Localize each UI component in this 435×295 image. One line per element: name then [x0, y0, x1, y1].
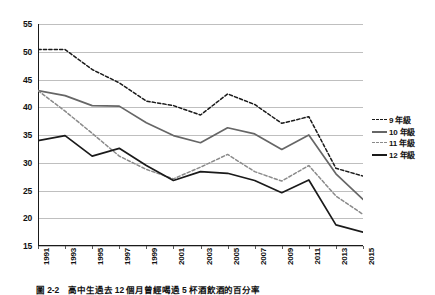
plot-area — [38, 24, 363, 246]
x-tick-label: 2013 — [340, 248, 349, 265]
x-tick-mark — [363, 246, 364, 249]
legend-item: 9 年級 — [372, 114, 434, 126]
y-tick-label: 30 — [23, 158, 32, 168]
y-tick-label: 45 — [23, 75, 32, 85]
x-tick-label: 1997 — [123, 248, 132, 265]
x-tick-label: 2003 — [205, 248, 214, 265]
legend-swatch-10-icon — [372, 127, 387, 135]
series-line-10 — [38, 91, 363, 200]
legend-swatch-9-icon — [372, 116, 387, 124]
legend-label: 11 年級 — [389, 137, 415, 148]
y-tick-label: 25 — [23, 186, 32, 196]
y-tick-label: 35 — [23, 130, 32, 140]
legend-swatch-12-icon — [372, 150, 387, 158]
y-tick-label: 50 — [23, 47, 32, 57]
series-line-9 — [38, 50, 363, 177]
x-tick-label: 1991 — [42, 248, 51, 265]
y-tick-label: 55 — [23, 19, 32, 29]
x-tick-label: 2015 — [367, 248, 376, 265]
x-tick-label: 1999 — [150, 248, 159, 265]
legend-label: 9 年級 — [389, 114, 411, 125]
legend-item: 11 年級 — [372, 137, 434, 149]
x-tick-label: 2011 — [313, 248, 322, 265]
y-tick-label: 20 — [23, 213, 32, 223]
y-tick-label: 15 — [23, 241, 32, 251]
x-tick-label: 2005 — [232, 248, 241, 265]
series-lines — [38, 24, 363, 246]
series-line-12 — [38, 136, 363, 233]
legend-item: 12 年級 — [372, 149, 434, 161]
x-tick-label: 1993 — [69, 248, 78, 265]
y-axis-labels: 555045403530252015 — [0, 24, 34, 246]
legend-item: 10 年級 — [372, 126, 434, 138]
chart-legend: 9 年級 10 年級 11 年級 12 年級 — [372, 114, 434, 160]
legend-label: 12 年級 — [389, 149, 415, 160]
x-tick-label: 2001 — [177, 248, 186, 265]
legend-label: 10 年級 — [389, 126, 415, 137]
figure-caption: 圖 2-2 高中生過去 12 個月曾經喝過 5 杯酒飲酒的百分率 — [36, 283, 366, 295]
y-tick-label: 40 — [23, 102, 32, 112]
x-axis-labels: 1991199319951997199920012003200520072009… — [38, 248, 363, 288]
x-tick-label: 2007 — [259, 248, 268, 265]
x-tick-label: 1995 — [96, 248, 105, 265]
x-tick-label: 2009 — [286, 248, 295, 265]
legend-swatch-11-icon — [372, 139, 387, 147]
